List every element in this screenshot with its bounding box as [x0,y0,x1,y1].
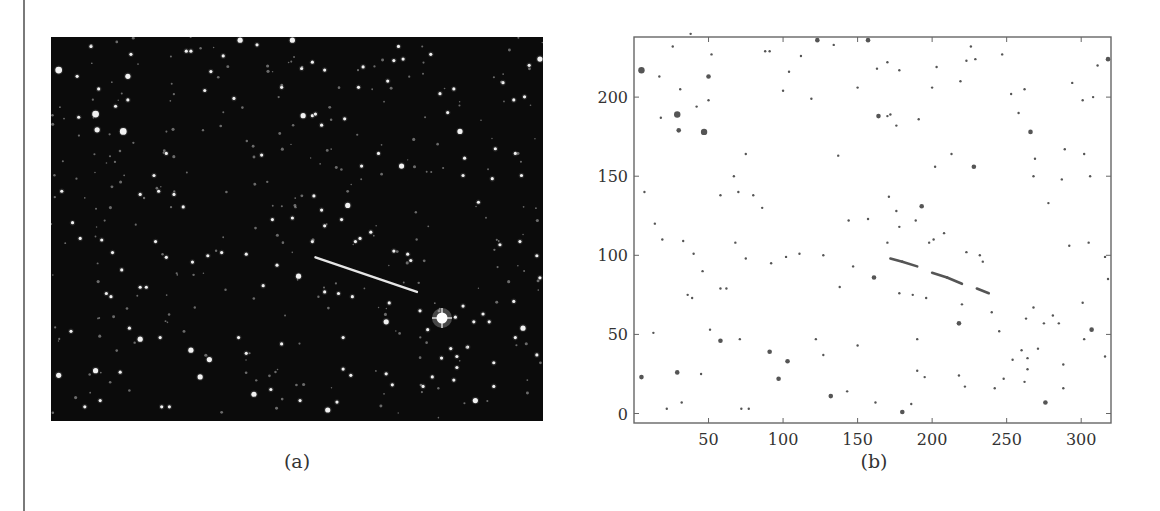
y-tick-label: 200 [597,88,628,107]
x-tick-label: 300 [1066,430,1097,449]
x-tick-label: 50 [698,430,718,449]
x-tick-label: 200 [917,430,948,449]
x-tick-label: 250 [991,430,1022,449]
caption-b: (b) [861,450,888,472]
plot-frame [634,37,1111,423]
y-tick-label: 100 [597,246,628,265]
x-tick-label: 100 [768,430,799,449]
binary-star-plot: 50100150200250300050100150200 [0,0,1160,511]
y-tick-label: 150 [597,167,628,186]
y-tick-label: 0 [618,405,628,424]
y-tick-label: 50 [608,325,628,344]
x-tick-label: 150 [842,430,873,449]
